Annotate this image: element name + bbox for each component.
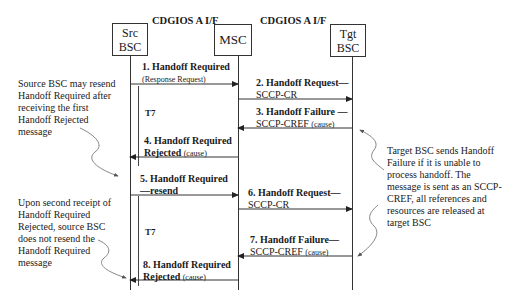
note-right: Target BSC sends Handoff Failure if it i…	[387, 145, 502, 229]
message-5-num: 5.	[140, 173, 148, 184]
message-8-title: Handoff Required	[153, 259, 231, 270]
note-right-line: process handoff. The	[387, 169, 502, 181]
note-left-bottom-line: does not resend the	[18, 233, 111, 245]
note-left-bottom-line: message	[18, 257, 111, 269]
message-2-num: 2.	[256, 77, 264, 88]
message-2-sub: SCCP-CR	[256, 89, 297, 100]
message-8-num: 8.	[143, 259, 151, 270]
note-right-line: message is sent as an SCCP-	[387, 181, 502, 193]
message-3-cause: (cause)	[311, 120, 334, 129]
message-5-title2: —resend	[140, 185, 178, 196]
message-4-title: Handoff Required	[154, 135, 232, 146]
note-left-top-line: message	[18, 126, 116, 138]
note-left-top: Source BSC may resend Handoff Required a…	[18, 78, 116, 138]
message-3: 3. Handoff Failure — SCCP-CREF (cause)	[256, 106, 347, 130]
message-7: 7. Handoff Failure— SCCP-CREF (cause)	[250, 234, 339, 258]
note-left-bottom: Upon second receipt of Handoff Required …	[18, 197, 111, 269]
message-7-num: 7.	[250, 234, 258, 245]
message-8: 8. Handoff Required Rejected (cause)	[143, 259, 231, 283]
note-left-top-line: Handoff Required after	[18, 90, 116, 102]
note-left-top-line: Handoff Rejected	[18, 114, 116, 126]
message-2: 2. Handoff Request— SCCP-CR	[256, 77, 349, 100]
message-3-num: 3.	[256, 106, 264, 117]
message-2-title: Handoff Request—	[266, 77, 349, 88]
message-8-title2: Rejected	[143, 271, 180, 282]
message-3-sub: SCCP-CREF	[256, 118, 309, 129]
message-5-title: Handoff Required	[150, 173, 228, 184]
note-right-line: target BSC	[387, 217, 502, 229]
note-right-line: resources are released at	[387, 205, 502, 217]
message-4: 4. Handoff Required Rejected (cause)	[144, 135, 232, 159]
note-left-bottom-line: Handoff Required	[18, 245, 111, 257]
message-7-title: Handoff Failure—	[260, 234, 339, 245]
note-left-top-line: receiving the first	[18, 102, 116, 114]
message-6-num: 6.	[248, 187, 256, 198]
message-4-cause: (cause)	[184, 149, 207, 158]
message-1: 1. Handoff Required (Response Request)	[142, 61, 230, 85]
note-right-line: CREF, all references and	[387, 193, 502, 205]
message-1-title: Handoff Required	[152, 61, 230, 72]
note-right-line: Target BSC sends Handoff	[387, 145, 502, 157]
message-6-title: Handoff Request—	[258, 187, 341, 198]
message-1-sub: (Response Request)	[142, 75, 206, 84]
message-7-cause: (cause)	[305, 248, 328, 257]
note-left-top-line: Source BSC may resend	[18, 78, 116, 90]
message-5: 5. Handoff Required —resend	[140, 173, 228, 196]
note-left-bottom-line: Rejected, source BSC	[18, 221, 111, 233]
message-7-sub: SCCP-CREF	[250, 246, 303, 257]
message-6: 6. Handoff Request— SCCP-CR	[248, 187, 341, 210]
message-6-sub: SCCP-CR	[248, 199, 289, 210]
note-left-bottom-line: Upon second receipt of	[18, 197, 111, 209]
note-right-line: Failure if it is unable to	[387, 157, 502, 169]
message-3-title: Handoff Failure —	[266, 106, 347, 117]
message-1-num: 1.	[142, 61, 150, 72]
message-8-cause: (cause)	[183, 273, 206, 282]
message-4-title2: Rejected	[144, 147, 181, 158]
note-left-bottom-line: Handoff Required	[18, 209, 111, 221]
message-4-num: 4.	[144, 135, 152, 146]
